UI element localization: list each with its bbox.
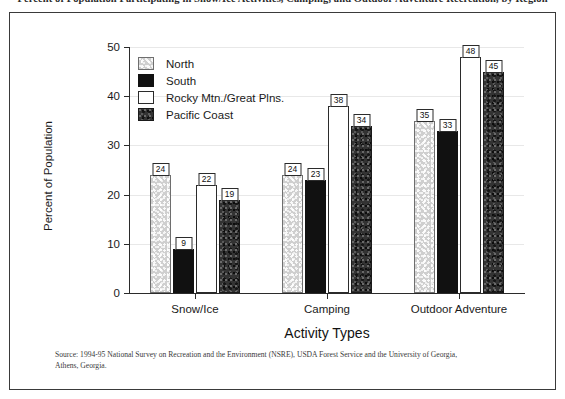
bar-value-label: 48 xyxy=(462,45,479,58)
bar[interactable]: 24 xyxy=(150,175,171,293)
y-tick-mark xyxy=(124,145,129,146)
legend-item[interactable]: Pacific Coast xyxy=(138,106,284,123)
x-category-label: Outdoor Adventure xyxy=(411,303,508,315)
legend-swatch-icon xyxy=(138,108,154,121)
x-tick-mark xyxy=(195,294,196,299)
legend-swatch-icon xyxy=(138,91,154,104)
bar-fill xyxy=(414,121,435,293)
bar-value-label: 35 xyxy=(416,109,433,122)
y-axis-line xyxy=(129,47,130,294)
legend-label: Rocky Mtn./Great Plns. xyxy=(166,92,284,104)
bar-value-label: 23 xyxy=(307,168,324,181)
y-tick-label: 10 xyxy=(107,238,120,250)
y-tick-label: 0 xyxy=(114,287,120,299)
bar-group-bars: 24233834 xyxy=(282,106,372,293)
bar-fill xyxy=(219,200,240,293)
bar[interactable]: 45 xyxy=(483,72,504,293)
legend-label: South xyxy=(166,75,196,87)
bar[interactable]: 23 xyxy=(305,180,326,293)
x-category-label: Snow/Ice xyxy=(171,303,218,315)
bar-fill xyxy=(483,72,504,293)
y-tick-mark xyxy=(124,96,129,97)
bar-value-label: 33 xyxy=(439,119,456,132)
bar-fill xyxy=(196,185,217,293)
bar[interactable]: 24 xyxy=(282,175,303,293)
bar-value-label: 9 xyxy=(175,237,192,250)
legend-swatch-icon xyxy=(138,74,154,87)
y-tick-mark xyxy=(124,293,129,294)
y-tick-label: 30 xyxy=(107,139,120,151)
x-axis-title: Activity Types xyxy=(129,325,525,341)
y-axis-title: Percent of Population xyxy=(42,96,54,256)
y-tick-label: 40 xyxy=(107,90,120,102)
bar-group-bars: 35334845 xyxy=(414,57,504,293)
bar-value-label: 24 xyxy=(284,163,301,176)
bar[interactable]: 34 xyxy=(351,126,372,293)
bar-fill xyxy=(173,249,194,293)
source-note: Source: 1994-95 National Survey on Recre… xyxy=(55,350,475,371)
bar[interactable]: 33 xyxy=(437,131,458,293)
bar-value-label: 24 xyxy=(152,163,169,176)
y-tick-mark xyxy=(124,47,129,48)
bar-value-label: 34 xyxy=(353,114,370,127)
chart-legend: NorthSouthRocky Mtn./Great Plns.Pacific … xyxy=(138,55,284,123)
bar-fill xyxy=(351,126,372,293)
bar-value-label: 19 xyxy=(221,188,238,201)
bar-fill xyxy=(437,131,458,293)
bar[interactable]: 9 xyxy=(173,249,194,293)
bar-value-label: 45 xyxy=(485,60,502,73)
bar-fill xyxy=(460,57,481,293)
x-category-label: Camping xyxy=(304,303,350,315)
figure-title-clipped: Percent of Population Participating in S… xyxy=(0,0,565,5)
legend-label: North xyxy=(166,58,194,70)
legend-item[interactable]: South xyxy=(138,72,284,89)
legend-swatch-icon xyxy=(138,57,154,70)
y-tick-mark xyxy=(124,195,129,196)
y-tick-mark xyxy=(124,244,129,245)
legend-item[interactable]: North xyxy=(138,55,284,72)
bar[interactable]: 22 xyxy=(196,185,217,293)
bar[interactable]: 48 xyxy=(460,57,481,293)
bar-fill xyxy=(305,180,326,293)
legend-label: Pacific Coast xyxy=(166,109,233,121)
y-tick-label: 50 xyxy=(107,41,120,53)
bar-value-label: 38 xyxy=(330,94,347,107)
y-tick-label: 20 xyxy=(107,189,120,201)
bar[interactable]: 19 xyxy=(219,200,240,293)
plot-area: 01020304050 Percent of Population 249221… xyxy=(10,13,557,391)
x-tick-mark xyxy=(327,294,328,299)
bar-fill xyxy=(328,106,349,293)
bar[interactable]: 35 xyxy=(414,121,435,293)
bar[interactable]: 38 xyxy=(328,106,349,293)
bar-fill xyxy=(282,175,303,293)
x-tick-mark xyxy=(459,294,460,299)
legend-item[interactable]: Rocky Mtn./Great Plns. xyxy=(138,89,284,106)
bar-fill xyxy=(150,175,171,293)
bar-group-bars: 2492219 xyxy=(150,175,240,293)
figure-frame: 01020304050 Percent of Population 249221… xyxy=(9,12,556,390)
bar-value-label: 22 xyxy=(198,173,215,186)
